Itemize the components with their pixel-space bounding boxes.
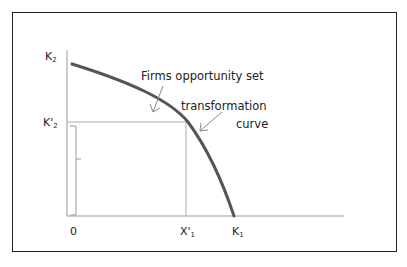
x1-prime-label: X'1 (180, 226, 195, 239)
ppf-diagram (0, 0, 407, 267)
k2-prime-label: K'2 (43, 117, 58, 130)
origin-label: 0 (70, 226, 77, 237)
x-axis-label: K1 (232, 226, 244, 239)
transformation-annotation-line1: transformation (181, 101, 266, 113)
bracket-icon (70, 126, 81, 215)
opportunity-set-annotation: Firms opportunity set (141, 71, 264, 83)
y-axis-label: K2 (45, 51, 57, 64)
transformation-annotation-line2: curve (236, 119, 268, 131)
transformation-arrow-icon (200, 112, 222, 131)
transformation-curve (72, 64, 234, 216)
